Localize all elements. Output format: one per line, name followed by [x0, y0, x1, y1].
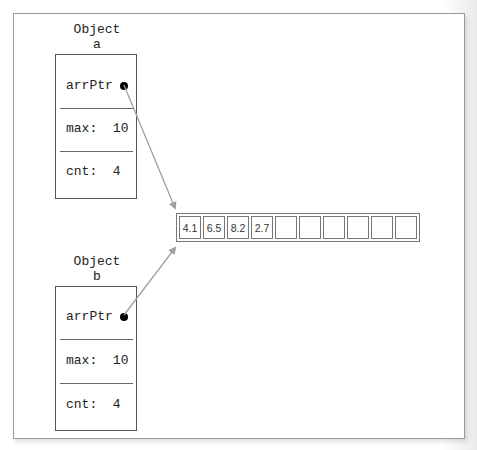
pointer-arrows [0, 0, 477, 450]
arrow-b-to-array-icon [124, 248, 175, 315]
arrow-a-to-array-icon [124, 85, 175, 208]
